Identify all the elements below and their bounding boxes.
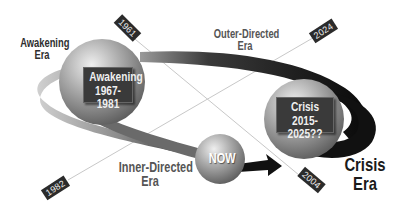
awakening-period-box: Awakening 1967-1981 [83,67,133,103]
awakening-era-label: Awakening Era [20,37,64,61]
crisis-period-box: Crisis 2015-2025?? [276,97,334,133]
now-label: NOW [209,150,236,166]
inner-directed-era-label: Inner-Directed Era [119,160,181,188]
saeculum-cycle-diagram: Awakening Era Outer-Directed Era Inner-D… [0,0,397,212]
crisis-era-label: Crisis Era [342,155,389,193]
outer-directed-era-label: Outer-Directed Era [214,28,276,52]
